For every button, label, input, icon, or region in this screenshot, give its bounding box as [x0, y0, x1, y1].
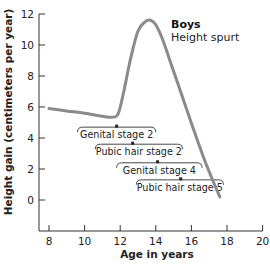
y-tick-label: 0 — [27, 194, 34, 206]
annotation-height-spurt: Height spurt — [171, 31, 240, 44]
x-tick-label: 8 — [46, 235, 53, 247]
y-tick-label: 10 — [21, 39, 34, 51]
y-axis-title: Height gain (centimeters per year) — [2, 9, 14, 216]
range-mean-marker — [131, 142, 134, 145]
x-axis-title: Age in years — [120, 248, 194, 260]
stage-range: Genital stage 4 — [117, 160, 202, 176]
x-tick-label: 14 — [149, 235, 163, 247]
range-label: Genital stage 4 — [123, 165, 196, 176]
range-mean-marker — [156, 160, 159, 163]
y-tick-label: 12 — [21, 8, 34, 20]
x-tick-label: 12 — [114, 235, 127, 247]
height-spurt-chart: 0246810128101214161820 Genital stage 2Pu… — [0, 0, 270, 268]
stage-range: Genital stage 2 — [77, 125, 155, 140]
y-tick-label: 8 — [27, 70, 34, 82]
x-tick-label: 18 — [220, 235, 233, 247]
range-mean-marker — [115, 125, 118, 128]
range-mean-marker — [179, 177, 182, 180]
y-tick-label: 6 — [27, 101, 34, 113]
x-tick-label: 20 — [256, 235, 269, 247]
range-label: Pubic hair stage 5 — [137, 182, 223, 193]
y-tick-label: 2 — [27, 163, 34, 175]
y-tick-label: 4 — [27, 132, 34, 144]
stage-range: Pubic hair stage 2 — [95, 142, 182, 158]
stage-ranges: Genital stage 2Pubic hair stage 2Genital… — [77, 125, 223, 193]
x-tick-label: 10 — [78, 235, 91, 247]
range-label: Pubic hair stage 2 — [96, 146, 182, 157]
stage-range: Pubic hair stage 5 — [136, 177, 223, 193]
x-tick-label: 16 — [185, 235, 199, 247]
range-label: Genital stage 2 — [80, 129, 153, 140]
annotation-boys: Boys — [171, 18, 201, 31]
